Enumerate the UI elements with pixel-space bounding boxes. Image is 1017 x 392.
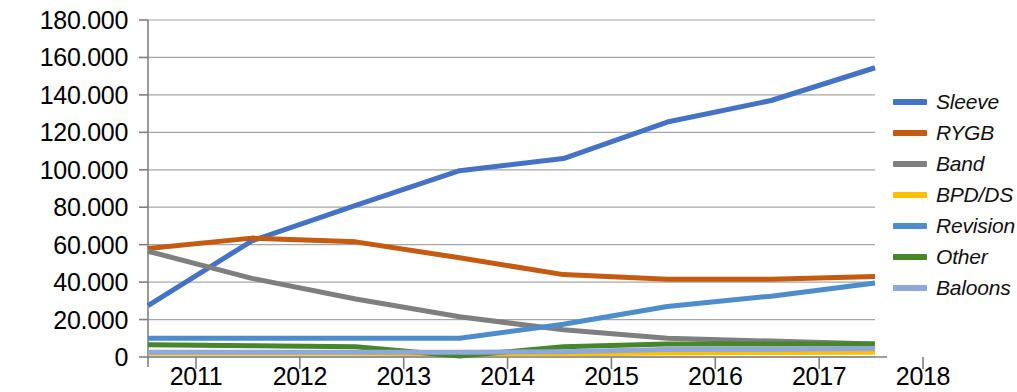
x-axis-tick-label: 2017 [792,362,846,391]
legend-swatch-icon [893,254,927,260]
legend-item-rygb[interactable]: RYGB [893,117,1017,148]
legend-item-other[interactable]: Other [893,241,1017,272]
x-axis-tick-label: 2014 [480,362,534,391]
legend-label: Baloons [936,276,1011,300]
legend-label: Band [936,152,984,176]
legend-label: RYGB [936,121,994,145]
x-axis-tick-label: 2018 [896,362,950,391]
legend-label: Revision [936,214,1015,238]
legend-swatch-icon [893,99,927,105]
legend-item-bpd-ds[interactable]: BPD/DS [893,179,1017,210]
legend-swatch-icon [893,285,927,291]
legend-item-band[interactable]: Band [893,148,1017,179]
chart-legend: SleeveRYGBBandBPD/DSRevisionOtherBaloons [893,86,1017,303]
legend-swatch-icon [893,192,927,198]
legend-swatch-icon [893,130,927,136]
line-chart: 020.00040.00060.00080.000100.000120.0001… [0,0,1017,392]
legend-item-sleeve[interactable]: Sleeve [893,86,1017,117]
legend-label: Other [936,245,988,269]
legend-label: BPD/DS [936,183,1013,207]
x-axis-tick-label: 2016 [688,362,742,391]
x-axis-tick-label: 2015 [584,362,638,391]
x-axis-tick-label: 2012 [273,362,327,391]
legend-swatch-icon [893,161,927,167]
x-axis: 20112012201320142015201620172018 [0,0,1017,392]
legend-label: Sleeve [936,90,999,114]
x-axis-tick-label: 2013 [376,362,430,391]
legend-item-baloons[interactable]: Baloons [893,272,1017,303]
legend-swatch-icon [893,223,927,229]
legend-item-revision[interactable]: Revision [893,210,1017,241]
x-axis-tick-label: 2011 [170,362,223,391]
